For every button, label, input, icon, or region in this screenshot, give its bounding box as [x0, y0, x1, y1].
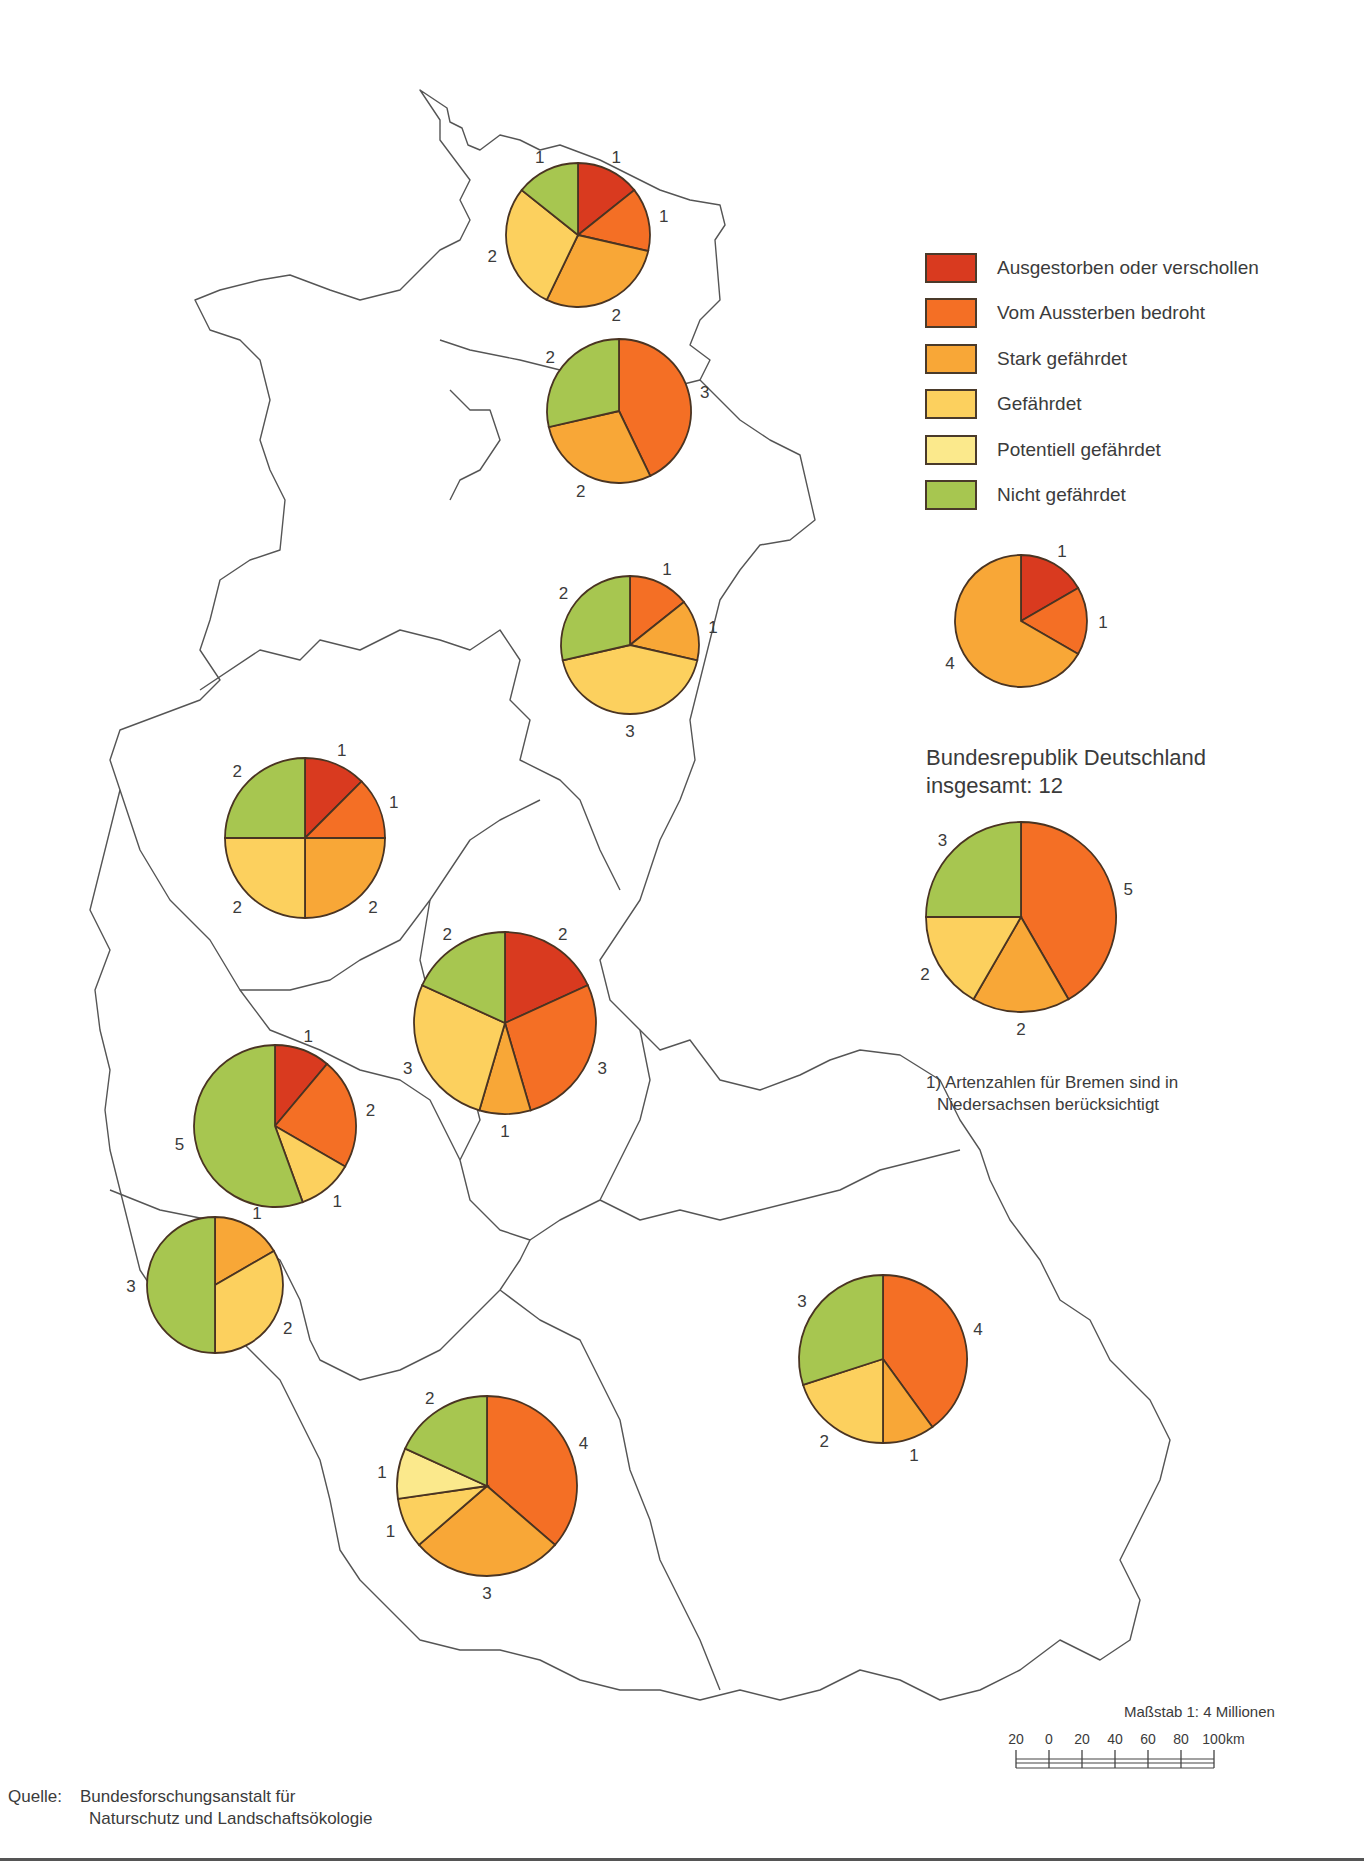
legend-item-strong: Stark gefährdet	[925, 336, 1259, 382]
pie-slice-not	[561, 576, 630, 660]
pie-southeast: 4123	[797, 1275, 982, 1465]
scale-bar: 20020406080100km	[1008, 1731, 1244, 1768]
legend: Ausgestorben oder verschollen Vom Ausste…	[925, 245, 1259, 518]
pie-south: 43112	[377, 1389, 588, 1603]
pie-value-label: 4	[973, 1320, 982, 1339]
footnote-line2: Niedersachsen berücksichtigt	[926, 1094, 1178, 1116]
pie-value-label: 5	[175, 1135, 184, 1154]
pie-value-label: 1	[386, 1522, 395, 1541]
source-line2: Naturschutz und Landschaftsökologie	[8, 1808, 373, 1830]
pie-slice-not	[547, 339, 619, 427]
legend-item-critical: Vom Aussterben bedroht	[925, 291, 1259, 337]
pie-north-2: 322	[545, 339, 709, 501]
pie-value-label: 1	[611, 148, 620, 167]
pie-value-label: 2	[559, 584, 568, 603]
legend-label: Gefährdet	[997, 393, 1082, 415]
pie-value-label: 2	[920, 965, 929, 984]
bottom-divider	[0, 1858, 1364, 1861]
swatch-potential	[925, 435, 977, 465]
pie-value-label: 2	[283, 1319, 292, 1338]
scale-tick-label: 20	[1008, 1731, 1024, 1747]
pie-value-label: 3	[797, 1292, 806, 1311]
legend-item-not: Nicht gefährdet	[925, 473, 1259, 519]
pie-value-label: 3	[700, 383, 709, 402]
legend-item-endangered: Gefährdet	[925, 382, 1259, 428]
pie-value-label: 2	[1016, 1020, 1025, 1039]
pie-value-label: 1	[389, 793, 398, 812]
pie-value-label: 3	[126, 1277, 135, 1296]
scale-tick-label: 40	[1107, 1731, 1123, 1747]
pie-southwest-1: 1215	[175, 1027, 376, 1211]
national-summary-title: Bundesrepublik Deutschland insgesamt: 12	[926, 744, 1206, 800]
pie-national-total: 5223	[920, 822, 1133, 1039]
pie-southwest-2: 123	[126, 1204, 292, 1353]
legend-label: Potentiell gefährdet	[997, 439, 1161, 461]
pie-value-label: 1	[1098, 613, 1107, 632]
swatch-extinct	[925, 253, 977, 283]
pie-value-label: 1	[333, 1192, 342, 1211]
pie-value-label: 4	[579, 1434, 588, 1453]
footnote-line1: 1) Artenzahlen für Bremen sind in	[926, 1073, 1178, 1092]
legend-item-potential: Potentiell gefährdet	[925, 427, 1259, 473]
pie-east-inset: 114	[945, 542, 1107, 687]
national-title-line1: Bundesrepublik Deutschland	[926, 744, 1206, 772]
pie-value-label: 1	[377, 1463, 386, 1482]
scale-unit: km	[1226, 1731, 1245, 1747]
pie-value-label: 1	[337, 741, 346, 760]
swatch-endangered	[925, 389, 977, 419]
pie-value-label: 1	[909, 1446, 918, 1465]
pie-value-label: 2	[232, 898, 241, 917]
pie-value-label: 1	[252, 1204, 261, 1223]
legend-item-extinct: Ausgestorben oder verschollen	[925, 245, 1259, 291]
source-line1: Bundesforschungsanstalt für	[80, 1787, 295, 1806]
swatch-critical	[925, 298, 977, 328]
pie-value-label: 2	[819, 1432, 828, 1451]
swatch-strong	[925, 344, 977, 374]
pie-value-label: 5	[1123, 880, 1132, 899]
pie-value-label: 2	[368, 898, 377, 917]
scale-tick-label: 20	[1074, 1731, 1090, 1747]
pie-value-label: 1	[1057, 542, 1066, 561]
scale-title: Maßstab 1: 4 Millionen	[1124, 1703, 1275, 1720]
legend-label: Ausgestorben oder verschollen	[997, 257, 1259, 279]
pie-value-label: 2	[545, 348, 554, 367]
pie-value-label: 1	[535, 148, 544, 167]
legend-label: Stark gefährdet	[997, 348, 1127, 370]
pie-value-label: 1	[708, 618, 717, 637]
pie-value-label: 4	[945, 654, 954, 673]
pie-value-label: 2	[576, 482, 585, 501]
pie-value-label: 1	[662, 560, 671, 579]
pie-value-label: 3	[482, 1584, 491, 1603]
pie-value-label: 2	[558, 925, 567, 944]
swatch-not	[925, 480, 977, 510]
national-title-line2: insgesamt: 12	[926, 772, 1206, 800]
source-credit: Quelle:Bundesforschungsanstalt für Natur…	[8, 1786, 373, 1830]
scale-tick-label: 60	[1140, 1731, 1156, 1747]
scale-tick-label: 80	[1173, 1731, 1189, 1747]
pie-value-label: 2	[232, 762, 241, 781]
scale-tick-label: 100	[1202, 1731, 1226, 1747]
pie-value-label: 1	[500, 1122, 509, 1141]
pie-north-1: 11221	[487, 148, 668, 326]
pie-slice-not	[147, 1217, 215, 1353]
pie-value-label: 3	[403, 1059, 412, 1078]
pie-west: 11222	[225, 741, 398, 918]
pie-value-label: 2	[425, 1389, 434, 1408]
scale-tick-label: 0	[1045, 1731, 1053, 1747]
footnote: 1) Artenzahlen für Bremen sind in Nieder…	[926, 1072, 1178, 1116]
pie-value-label: 1	[659, 207, 668, 226]
pie-value-label: 2	[442, 925, 451, 944]
pie-value-label: 2	[366, 1101, 375, 1120]
pie-north-3: 1132	[559, 560, 718, 741]
pie-value-label: 3	[938, 831, 947, 850]
pie-value-label: 1	[303, 1027, 312, 1046]
source-label: Quelle:	[8, 1786, 80, 1808]
legend-label: Nicht gefährdet	[997, 484, 1126, 506]
legend-label: Vom Aussterben bedroht	[997, 302, 1205, 324]
pie-value-label: 3	[625, 722, 634, 741]
pie-value-label: 2	[487, 247, 496, 266]
pie-value-label: 2	[611, 306, 620, 325]
pie-value-label: 3	[598, 1059, 607, 1078]
